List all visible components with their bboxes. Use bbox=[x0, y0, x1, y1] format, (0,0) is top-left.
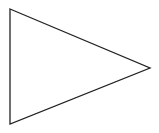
diagram-canvas bbox=[0, 0, 159, 133]
